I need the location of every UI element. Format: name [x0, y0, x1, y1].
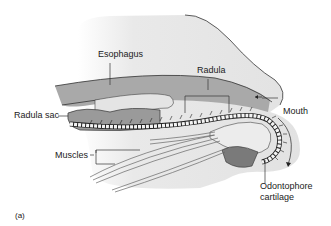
panel-label: (a): [15, 212, 25, 221]
label-cartilage: cartilage: [260, 193, 294, 203]
label-radula-sac: Radula sac: [14, 111, 59, 121]
label-muscles: Muscles: [55, 151, 88, 161]
label-odontophore: Odontophore: [260, 182, 313, 192]
label-esophagus: Esophagus: [98, 50, 143, 60]
label-mouth: Mouth: [283, 107, 308, 117]
label-radula: Radula: [197, 66, 226, 76]
